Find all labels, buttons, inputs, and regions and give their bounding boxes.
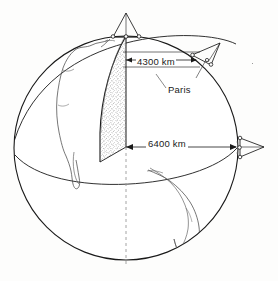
north-pole-triangulation-marker [111,13,141,38]
dimension-label-equatorial-radius: 6400 km [148,138,186,149]
dimension-label-polar-distance: 4300 km [137,56,175,67]
city-label-paris: Paris [168,84,191,95]
earth-diagram-svg [0,0,278,281]
earth-diagram-figure: 4300 km 6400 km Paris [0,0,278,281]
page-speck [252,63,253,64]
equator-triangulation-marker [236,136,264,159]
